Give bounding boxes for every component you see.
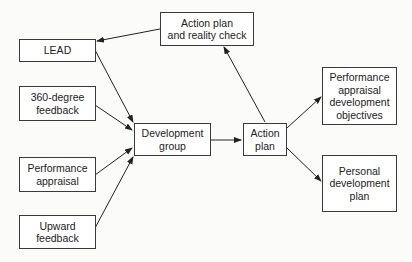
node-lead: LEAD [19,39,96,62]
node-personal-development-plan: Personal development plan [322,155,397,212]
node-development-group: Development group [134,123,211,156]
arrow-action-reality-to-lead [97,29,160,41]
diagram-canvas: Action plan and reality check LEAD 360-d… [0,0,412,262]
arrow-action-plan-to-personal-dev [287,148,321,181]
node-performance-appraisal-development-objectives: Performance appraisal development object… [322,67,397,125]
arrow-perf-appraisal-to-dev-group [95,148,132,175]
node-upward-feedback: Upward feedback [19,215,96,249]
arrow-upward-to-dev-group [95,157,133,228]
node-action-plan-reality-check: Action plan and reality check [160,12,254,46]
arrow-action-plan-to-action-reality [224,47,265,122]
arrow-lead-to-dev-group [95,50,133,122]
node-360-degree-feedback: 360-degree feedback [19,86,96,121]
node-performance-appraisal: Performance appraisal [19,157,96,192]
arrow-action-plan-to-pa-dev-obj [287,97,321,128]
node-action-plan: Action plan [243,123,287,156]
